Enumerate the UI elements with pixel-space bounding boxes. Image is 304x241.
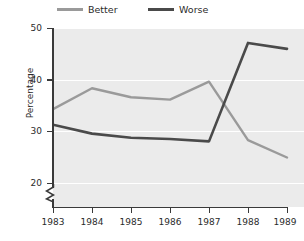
- plot-area: [53, 28, 304, 207]
- x-tick-1985: [131, 207, 132, 213]
- x-tick-1983: [53, 207, 54, 213]
- chart-container: Better Worse 50 40 30 20 Percentage: [0, 0, 304, 241]
- legend-swatch-better: [57, 8, 83, 11]
- x-tick-1989: [287, 207, 288, 213]
- y-tick-30: [47, 131, 52, 132]
- x-tick-label-1985: 1985: [114, 217, 148, 228]
- y-tick-40: [47, 79, 52, 80]
- series-lines: [53, 28, 304, 207]
- x-tick-label-1989: 1989: [268, 217, 302, 228]
- y-tick-label-50: 50: [20, 23, 42, 33]
- y-axis-title: Percentage: [25, 43, 35, 143]
- y-tick-50: [47, 28, 52, 29]
- y-tick-label-20: 20: [20, 178, 42, 188]
- y-axis-line: [52, 28, 54, 188]
- x-tick-label-1986: 1986: [153, 217, 187, 228]
- axis-break-icon: [44, 184, 62, 202]
- x-tick-label-1984: 1984: [75, 217, 109, 228]
- line-series-better: [53, 82, 287, 158]
- x-tick-1988: [248, 207, 249, 213]
- line-series-worse: [53, 43, 287, 141]
- x-tick-label-1987: 1987: [192, 217, 226, 228]
- x-tick-1984: [92, 207, 93, 213]
- x-tick-label-1983: 1983: [36, 217, 70, 228]
- chart-legend: Better Worse: [0, 0, 304, 20]
- x-tick-1987: [209, 207, 210, 213]
- legend-label-worse: Worse: [179, 3, 208, 16]
- x-tick-label-1988: 1988: [231, 217, 265, 228]
- legend-label-better: Better: [88, 3, 118, 16]
- x-tick-1986: [170, 207, 171, 213]
- legend-swatch-worse: [148, 8, 174, 11]
- y-tick-20: [47, 183, 52, 184]
